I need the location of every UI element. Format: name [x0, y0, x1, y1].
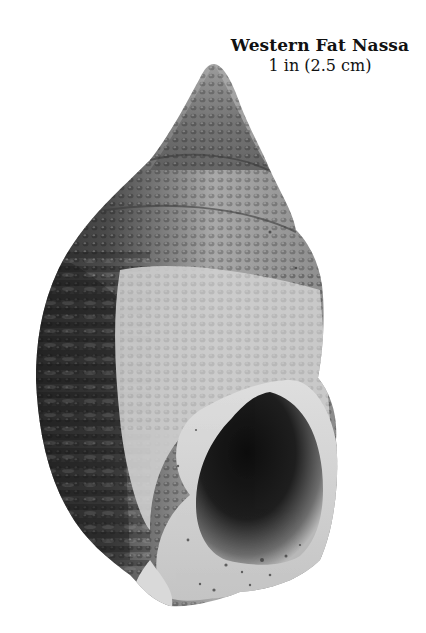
shell-photo — [0, 0, 426, 633]
shell-body — [0, 0, 426, 633]
